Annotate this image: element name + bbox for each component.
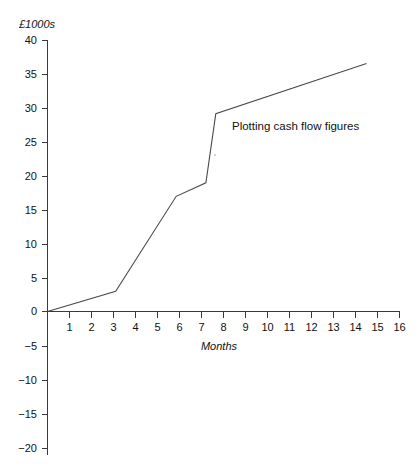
y-tick-label: 30 xyxy=(25,102,37,114)
y-tick-label: 20 xyxy=(25,170,37,182)
x-tick-label: 11 xyxy=(284,321,295,333)
y-tick-label: 0 xyxy=(31,305,37,317)
x-tick-label: 2 xyxy=(88,321,94,333)
x-axis-title: Months xyxy=(201,340,238,352)
cash-flow-chart: £1000s 40 35 30 25 20 15 xyxy=(0,0,420,474)
x-axis-ticks xyxy=(70,312,400,319)
y-axis-ticks xyxy=(42,41,48,449)
y-tick-label: −5 xyxy=(24,340,37,352)
x-tick-label: 14 xyxy=(349,321,361,333)
x-axis-tick-labels: 1 2 3 4 5 6 7 8 9 10 11 12 13 14 15 16 xyxy=(66,321,405,333)
y-tick-label: 10 xyxy=(25,238,37,250)
chart-annotation: Plotting cash flow figures xyxy=(232,120,359,132)
x-tick-label: 8 xyxy=(220,321,226,333)
chart-canvas: £1000s 40 35 30 25 20 15 xyxy=(0,0,420,474)
x-tick-label: 4 xyxy=(132,321,138,333)
x-tick-label: 10 xyxy=(261,321,273,333)
y-axis-tick-labels: 40 35 30 25 20 15 10 5 0 −5 −10 −15 −20 xyxy=(18,34,37,454)
x-tick-label: 6 xyxy=(176,321,182,333)
y-tick-label: −10 xyxy=(18,374,37,386)
y-axis-title: £1000s xyxy=(18,18,56,30)
scan-speck xyxy=(214,154,216,156)
x-tick-label: 3 xyxy=(110,321,116,333)
x-tick-label: 12 xyxy=(305,321,317,333)
y-tick-label: −15 xyxy=(18,408,37,420)
x-tick-label: 15 xyxy=(371,321,383,333)
y-tick-label: −20 xyxy=(18,442,37,454)
y-tick-label: 25 xyxy=(25,136,37,148)
x-tick-label: 1 xyxy=(66,321,72,333)
x-tick-label: 9 xyxy=(242,321,248,333)
y-tick-label: 5 xyxy=(31,272,37,284)
y-tick-label: 40 xyxy=(25,34,37,46)
x-tick-label: 16 xyxy=(393,321,405,333)
cash-flow-line xyxy=(48,64,367,312)
x-tick-label: 13 xyxy=(327,321,339,333)
x-tick-label: 5 xyxy=(154,321,160,333)
y-tick-label: 35 xyxy=(25,68,37,80)
x-tick-label: 7 xyxy=(198,321,204,333)
y-tick-label: 15 xyxy=(25,204,37,216)
